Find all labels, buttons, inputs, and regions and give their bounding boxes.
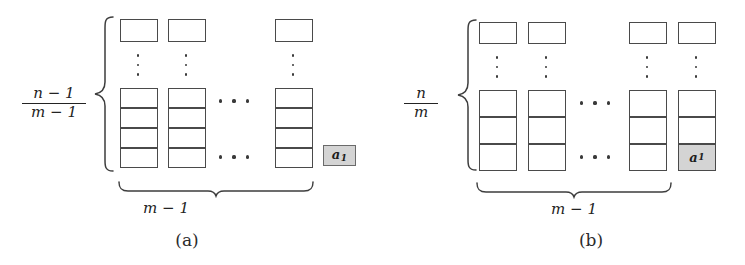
panel-a-col3-cell-3	[275, 128, 313, 148]
panel-b-highlight-label: a1	[679, 145, 715, 170]
panel-a-col2-cell-3	[168, 128, 206, 148]
panel-b-col2-top-cell	[528, 22, 566, 44]
panel-a-col2-cell-2	[168, 108, 206, 128]
panel-b-highlight-a1: a1	[678, 144, 716, 171]
panel-b-col4-cell-2	[678, 117, 716, 144]
panel-a-col1-top-cell	[120, 19, 158, 42]
panel-a-height-numerator: n − 1	[31, 86, 76, 103]
panel-a-col1-vertical-ellipsis	[136, 54, 140, 76]
panel-a-col3-cell-1	[275, 88, 313, 108]
panel-b-height-label: n m	[404, 86, 438, 121]
panel-b-col3-cell-2	[629, 117, 667, 144]
panel-b-bottom-brace	[476, 182, 672, 198]
panel-b-col2-vertical-ellipsis	[544, 56, 548, 78]
panel-b-col1-top-cell	[479, 22, 517, 44]
panel-a: n − 1 m − 1	[0, 0, 372, 265]
panel-a-col3-cell-4	[275, 148, 313, 168]
panel-b: n m	[373, 0, 745, 265]
panel-b-col1-cell-3	[479, 144, 517, 171]
panel-a-caption: (a)	[137, 230, 237, 250]
panel-b-col4-cell-1	[678, 90, 716, 117]
panel-b-col2-cell-3	[528, 144, 566, 171]
panel-a-bottom-brace	[118, 181, 314, 197]
panel-b-col2-cell-2	[528, 117, 566, 144]
panel-a-horizontal-ellipsis-upper	[219, 99, 249, 103]
panel-a-col2-cell-1	[168, 88, 206, 108]
panel-a-height-label: n − 1 m − 1	[22, 86, 86, 121]
panel-b-horizontal-ellipsis-lower	[580, 155, 610, 159]
panel-b-col4-top-cell	[678, 22, 716, 44]
panel-b-col2-cell-1	[528, 90, 566, 117]
panel-a-col1-stack	[120, 88, 158, 168]
panel-a-col2-vertical-ellipsis	[184, 54, 188, 76]
panel-b-col1-cell-1	[479, 90, 517, 117]
panel-a-left-brace	[93, 16, 115, 172]
panel-a-highlight-label: a1	[332, 148, 348, 163]
panel-a-col3-cell-2	[275, 108, 313, 128]
panel-a-col3-vertical-ellipsis	[291, 54, 295, 76]
panel-a-col2-stack	[168, 88, 206, 168]
figure-two-panel-block-diagram: n − 1 m − 1	[0, 0, 745, 265]
panel-b-col3-top-cell	[629, 22, 667, 44]
panel-b-col1-vertical-ellipsis	[495, 56, 499, 78]
panel-a-horizontal-ellipsis-lower	[219, 155, 249, 159]
panel-b-caption: (b)	[541, 230, 641, 250]
panel-a-col3-stack	[275, 88, 313, 168]
panel-b-col3-cell-1	[629, 90, 667, 117]
panel-b-col1-stack	[479, 90, 517, 170]
panel-a-col1-cell-2	[120, 108, 158, 128]
panel-a-col1-cell-3	[120, 128, 158, 148]
panel-a-height-denominator: m − 1	[29, 104, 79, 121]
panel-b-col3-stack	[629, 90, 667, 170]
panel-b-col3-cell-3	[629, 144, 667, 171]
panel-b-height-denominator: m	[412, 104, 430, 121]
panel-b-col4-stack: a1	[678, 90, 716, 170]
panel-b-horizontal-ellipsis-upper	[580, 101, 610, 105]
panel-b-left-brace	[456, 19, 478, 171]
panel-a-col2-cell-4	[168, 148, 206, 168]
panel-b-col3-vertical-ellipsis	[645, 56, 649, 78]
panel-a-col2-top-cell	[168, 19, 206, 42]
panel-a-highlight-a1: a1	[323, 145, 356, 166]
panel-b-width-label: m − 1	[524, 200, 624, 218]
panel-b-col2-stack	[528, 90, 566, 170]
panel-b-height-numerator: n	[414, 86, 428, 103]
panel-b-col4-vertical-ellipsis	[694, 56, 698, 78]
panel-a-width-label: m − 1	[116, 199, 216, 217]
panel-a-col1-cell-4	[120, 148, 158, 168]
panel-a-col1-cell-1	[120, 88, 158, 108]
panel-b-col1-cell-2	[479, 117, 517, 144]
panel-a-col3-top-cell	[275, 19, 313, 42]
